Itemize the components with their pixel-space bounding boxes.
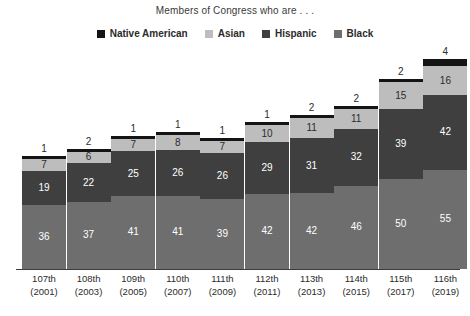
bar-segment-hispanic[interactable]: 22 — [67, 163, 111, 202]
bar-group[interactable]: 1726391 — [200, 138, 244, 269]
bar-group[interactable]: 1725411 — [111, 136, 155, 269]
bar-segment-black[interactable]: 42 — [245, 194, 289, 269]
bar-segment-value: 26 — [217, 171, 228, 181]
bar-segment-value: 39 — [217, 229, 228, 239]
x-tick-congress: 116th — [434, 273, 457, 284]
x-axis-tick-labels: 107th(2001)108th(2003)109th(2005)110th(2… — [0, 272, 470, 312]
bar-segment-value: 7 — [220, 142, 226, 152]
bar-segment-value: 19 — [38, 183, 49, 193]
bar-segment-value: 41 — [172, 227, 183, 237]
bar-stack: 2113246 — [334, 106, 378, 269]
legend-item-hispanic[interactable]: Hispanic — [262, 28, 317, 39]
bar-segment-value: 15 — [395, 91, 406, 101]
x-tick-congress: 111th — [211, 273, 233, 284]
x-tick-congress: 115th — [389, 273, 412, 284]
bar-segment-value: 42 — [261, 226, 272, 236]
bar-segment-hispanic[interactable]: 39 — [379, 109, 423, 179]
bar-segment-value: 37 — [83, 230, 94, 240]
bar-segment-black[interactable]: 39 — [200, 199, 244, 268]
bar-segment-hispanic[interactable]: 26 — [200, 153, 244, 199]
bar-group[interactable]: 1826411 — [156, 132, 200, 268]
bar-top-value-native-american: 1 — [111, 123, 155, 134]
bar-segment-value: 22 — [83, 178, 94, 188]
bar-segment-hispanic[interactable]: 26 — [156, 150, 200, 196]
bar-segment-asian[interactable]: 7 — [200, 141, 244, 153]
bar-segment-value: 50 — [395, 219, 406, 229]
bar-segment-hispanic[interactable]: 19 — [22, 171, 66, 205]
bar-top-value-native-american: 2 — [290, 102, 334, 113]
bar-segment-black[interactable]: 41 — [156, 196, 200, 269]
bar-group[interactable]: 21131422 — [290, 115, 334, 269]
bar-segment-value: 16 — [440, 76, 451, 86]
bar-stack: 2153950 — [379, 79, 423, 269]
bar-segment-asian[interactable]: 16 — [423, 66, 467, 95]
bar-segment-hispanic[interactable]: 29 — [245, 142, 289, 194]
bar-segment-asian[interactable]: 11 — [334, 109, 378, 129]
bar-stack: 182641 — [156, 132, 200, 268]
bar-segment-hispanic[interactable]: 42 — [423, 95, 467, 170]
bar-segment-asian[interactable]: 11 — [290, 118, 334, 138]
legend-item-native-american[interactable]: Native American — [97, 28, 188, 39]
bar-segment-asian[interactable]: 8 — [156, 135, 200, 149]
bar-segment-black[interactable]: 41 — [111, 196, 155, 269]
bar-group[interactable]: 21132462 — [334, 106, 378, 269]
legend-item-label: Hispanic — [275, 28, 317, 39]
bar-group[interactable]: 21539502 — [379, 79, 423, 269]
chart-title: Members of Congress who are . . . — [0, 5, 470, 16]
x-tick-congress: 108th — [77, 273, 101, 284]
bar-stack: 2113142 — [290, 115, 334, 269]
bar-segment-asian[interactable]: 6 — [67, 152, 111, 163]
chart-legend: Native AmericanAsianHispanicBlack — [0, 28, 470, 39]
bar-segment-value: 36 — [38, 232, 49, 242]
legend-item-label: Native American — [110, 28, 188, 39]
bar-segment-asian[interactable]: 15 — [379, 82, 423, 109]
bar-segment-black[interactable]: 42 — [290, 193, 334, 268]
x-tick-congress: 113th — [300, 273, 323, 284]
legend-swatch-icon — [334, 30, 342, 38]
bar-group[interactable]: 41642554 — [423, 59, 467, 269]
bar-segment-value: 8 — [175, 138, 181, 148]
bar-segment-value: 11 — [306, 123, 316, 133]
bar-stack: 172541 — [111, 136, 155, 269]
bar-segment-hispanic[interactable]: 32 — [334, 129, 378, 186]
bar-segment-value: 29 — [261, 163, 272, 173]
bar-segment-value: 6 — [86, 152, 92, 162]
bar-segment-hispanic[interactable]: 31 — [290, 138, 334, 194]
bar-segment-black[interactable]: 55 — [423, 170, 467, 268]
bar-segment-value: 7 — [41, 160, 47, 170]
x-tick-year: (2019) — [419, 285, 470, 298]
plot-area: 1719361262237217254111826411172639111029… — [0, 44, 470, 270]
bar-segment-black[interactable]: 46 — [334, 186, 378, 268]
bar-segment-value: 11 — [351, 114, 361, 124]
x-tick-label: 116th(2019) — [419, 272, 470, 298]
legend-item-label: Asian — [218, 28, 245, 39]
bar-top-value-native-american: 2 — [67, 136, 111, 147]
bar-segment-asian[interactable]: 10 — [245, 125, 289, 143]
bar-segment-value: 55 — [440, 214, 451, 224]
bar-group[interactable]: 2622372 — [67, 149, 111, 269]
legend-item-asian[interactable]: Asian — [205, 28, 245, 39]
bar-segment-asian[interactable]: 7 — [22, 159, 66, 171]
bar-stack: 172639 — [200, 138, 244, 269]
legend-item-black[interactable]: Black — [334, 28, 374, 39]
bar-segment-value: 46 — [351, 222, 362, 232]
bar-segment-black[interactable]: 37 — [67, 202, 111, 268]
bar-segment-black[interactable]: 36 — [22, 205, 66, 269]
bar-segment-value: 41 — [128, 227, 139, 237]
bar-group[interactable]: 11029421 — [245, 122, 289, 269]
bar-segment-asian[interactable]: 7 — [111, 139, 155, 151]
bar-segment-hispanic[interactable]: 25 — [111, 151, 155, 195]
bar-stack: 1102942 — [245, 122, 289, 269]
bar-top-value-native-american: 1 — [156, 119, 200, 130]
legend-swatch-icon — [262, 30, 270, 38]
bar-top-value-native-american: 2 — [334, 93, 378, 104]
x-tick-congress: 114th — [345, 273, 368, 284]
bar-group[interactable]: 1719361 — [22, 156, 66, 269]
bar-segment-value: 42 — [440, 127, 451, 137]
legend-swatch-icon — [97, 30, 105, 38]
bar-segment-value: 26 — [172, 168, 183, 178]
bar-segment-native-american[interactable]: 4 — [423, 59, 467, 66]
legend-swatch-icon — [205, 30, 213, 38]
bar-segment-black[interactable]: 50 — [379, 179, 423, 269]
bar-top-value-native-american: 1 — [200, 125, 244, 136]
